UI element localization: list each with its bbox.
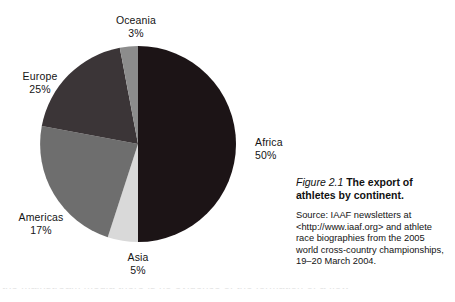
- pie-label-oceania-value: 3%: [97, 27, 175, 40]
- pie-label-europe-name: Europe: [4, 70, 76, 83]
- pie-label-asia-value: 5%: [110, 264, 166, 277]
- pie-label-americas: Americas 17%: [2, 211, 80, 236]
- pie-label-asia-name: Asia: [110, 251, 166, 264]
- pie-label-europe-value: 25%: [4, 83, 76, 96]
- pie-slice-africa: [138, 46, 236, 242]
- page-bleed-text-line: the mainstream media there is no evidenc…: [2, 288, 349, 292]
- pie-label-americas-name: Americas: [2, 211, 80, 224]
- pie-label-oceania-name: Oceania: [97, 14, 175, 27]
- pie-label-africa-name: Africa: [255, 136, 321, 149]
- caption-block: Figure 2.1 The export of athletes by con…: [296, 176, 448, 268]
- pie-label-americas-value: 17%: [2, 224, 80, 237]
- page-bleed-text: the mainstream media there is no evidenc…: [0, 288, 455, 302]
- pie-label-africa-value: 50%: [255, 149, 321, 162]
- figure-container: Oceania 3% Europe 25% Americas 17% Asia …: [0, 0, 455, 302]
- pie-label-africa: Africa 50%: [255, 136, 321, 161]
- pie-label-europe: Europe 25%: [4, 70, 76, 95]
- figure-caption: Figure 2.1 The export of athletes by con…: [296, 176, 448, 202]
- figure-source: Source: IAAF newsletters at <http://www.…: [296, 210, 448, 268]
- figure-number: Figure 2.1: [296, 176, 343, 188]
- pie-chart: Oceania 3% Europe 25% Americas 17% Asia …: [0, 0, 290, 302]
- pie-label-asia: Asia 5%: [110, 251, 166, 276]
- pie-label-oceania: Oceania 3%: [97, 14, 175, 39]
